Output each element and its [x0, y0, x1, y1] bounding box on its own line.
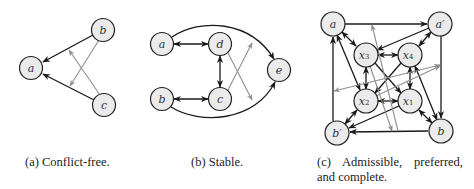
svg-text:b: b: [437, 125, 444, 138]
svg-text:d: d: [216, 38, 223, 51]
edge-b-prime-x2-mutual: [345, 110, 357, 124]
svg-text:b: b: [158, 93, 165, 106]
panel-a-conflict-free: a b c: [20, 19, 116, 117]
edge-c-attacks-attack-b-a: [69, 50, 100, 95]
node-a-prime: a′: [428, 12, 452, 36]
edge-a-x3-mutual: [342, 32, 356, 46]
node-b: b: [151, 88, 174, 111]
edge-b-attacks-attack-c-a: [70, 40, 99, 86]
node-c: c: [209, 88, 232, 111]
svg-text:a: a: [28, 62, 35, 75]
node-a: a: [20, 57, 43, 80]
node-d: d: [209, 33, 232, 56]
svg-text:c: c: [101, 99, 107, 112]
caption-panel-b: (b) Stable.: [191, 155, 243, 170]
caption-panel-c-line1: (c) Admissible, preferred,: [317, 155, 463, 169]
panel-b-stable: a d e b c: [151, 25, 291, 117]
svg-text:a′: a′: [435, 18, 445, 31]
node-x2: x2: [354, 89, 378, 113]
node-a: a: [151, 33, 174, 56]
edge-b-attacks-b-prime: [350, 131, 428, 132]
node-x3: x3: [354, 43, 378, 67]
svg-text:a: a: [330, 18, 337, 31]
node-b-prime: b′: [325, 121, 349, 145]
node-x1: x1: [398, 89, 422, 113]
node-x4: x4: [398, 43, 422, 67]
panel-c-admissible: a a′ x3 x4 x2 x1 b′ b: [321, 12, 453, 145]
caption-panel-a: (a) Conflict-free.: [25, 155, 110, 170]
svg-text:b: b: [99, 24, 106, 37]
caption-panel-c: (c) Admissible, preferred, and complete.: [317, 155, 463, 185]
node-b: b: [429, 119, 453, 143]
node-c: c: [93, 94, 116, 117]
edge-a-prime-x4-mutual: [419, 32, 431, 46]
svg-text:c: c: [217, 93, 223, 106]
node-b: b: [92, 19, 115, 42]
svg-text:a: a: [159, 38, 166, 51]
node-e: e: [268, 59, 291, 82]
caption-panel-c-line2: and complete.: [317, 170, 463, 185]
edge-b-x1-mutual: [419, 110, 432, 123]
edge-d-attacks-attack-b-e: [228, 53, 252, 100]
edge-c-attacks-attack-a-e: [228, 43, 252, 90]
edge-b-attacks-a: [43, 35, 93, 62]
svg-text:e: e: [276, 64, 283, 77]
svg-text:b′: b′: [332, 127, 342, 140]
node-a: a: [321, 12, 345, 36]
edge-c-attacks-a: [43, 74, 94, 100]
